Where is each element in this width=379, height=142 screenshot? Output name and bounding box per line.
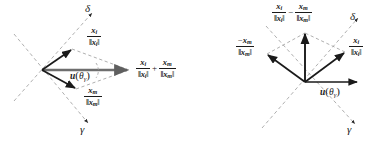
sum-term-one: xi ‖xi‖	[136, 58, 150, 79]
paren-close: )	[336, 85, 340, 97]
fraction-denominator: ‖xm‖	[159, 70, 177, 80]
difference-term-two: xm ‖xm‖	[295, 2, 313, 23]
vector-geometry-figure: δ γ xi ‖xi‖ xm ‖xm‖ u(θγ) xi ‖xi‖ + xm	[0, 0, 379, 142]
left-delta-axis-label: δ	[85, 3, 90, 14]
diagram-canvas	[0, 0, 379, 142]
left-direction-label: u(θγ)	[70, 70, 90, 82]
fraction-denominator: ‖xi‖	[272, 14, 286, 24]
parallelogram-edge-right-dashed-right	[305, 33, 345, 52]
fraction-numerator: xi	[272, 2, 286, 12]
left-unit-vector-xi-label: xi ‖xi‖	[87, 26, 101, 47]
left-unit-vector-xm-label: xm ‖xm‖	[84, 86, 102, 107]
fraction-denominator: ‖xm‖	[295, 14, 313, 24]
fraction-numerator: xi	[136, 58, 150, 68]
parallelogram-edge-left-dashed-right	[267, 33, 305, 54]
delta-axis-dashed-line	[14, 13, 92, 101]
fraction-numerator: xi	[87, 26, 101, 36]
fraction-numerator: −xm	[236, 36, 254, 46]
right-gamma-axis-label: γ	[347, 124, 351, 135]
left-sum-expression-label: xi ‖xi‖ + xm ‖xm‖	[136, 58, 176, 79]
fraction-denominator: ‖xi‖	[136, 70, 150, 80]
fraction-denominator: ‖xm‖	[84, 98, 102, 108]
fraction-denominator: ‖xi‖	[349, 48, 363, 58]
fraction-numerator: xi	[349, 36, 363, 46]
right-diagram-group	[262, 18, 358, 128]
right-difference-expression-label: xi ‖xi‖ − xm ‖xm‖	[272, 2, 312, 23]
difference-term-one: xi ‖xi‖	[272, 2, 286, 23]
gamma-axis-dashed-line-right	[266, 26, 355, 124]
left-diagram-group	[14, 13, 129, 123]
unit-vector-xi-arrow-right	[305, 53, 344, 82]
paren-close: )	[86, 69, 90, 81]
right-delta-axis-label: δ	[350, 11, 355, 22]
sum-term-two: xm ‖xm‖	[159, 58, 177, 79]
negative-unit-vector-xm-arrow	[268, 55, 305, 82]
plus-operator: +	[150, 64, 158, 73]
fraction-numerator: xm	[84, 86, 102, 96]
minus-operator: −	[286, 8, 294, 17]
fraction-denominator: ‖xm‖	[236, 48, 254, 58]
fraction-numerator: xm	[295, 2, 313, 12]
right-unit-vector-xi-label: xi ‖xi‖	[349, 36, 363, 57]
left-gamma-axis-label: γ	[80, 124, 84, 135]
right-direction-label: u(θγ)	[320, 86, 340, 98]
fraction-denominator: ‖xi‖	[87, 38, 101, 48]
parallelogram-edge-upper-dashed	[72, 49, 129, 70]
right-negative-unit-vector-xm-label: −xm ‖xm‖	[236, 36, 254, 57]
fraction-numerator: xm	[159, 58, 177, 68]
